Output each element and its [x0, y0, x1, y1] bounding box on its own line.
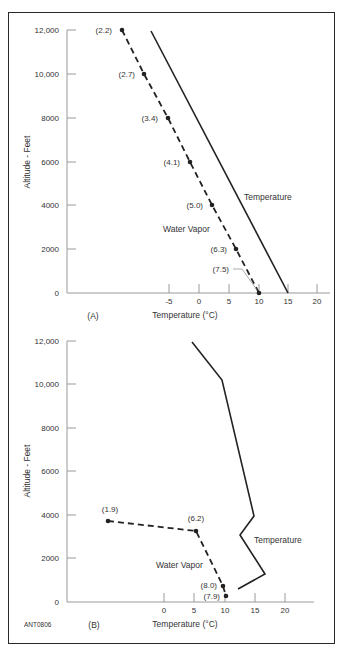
x-axis-title-a: Temperature (°C) [152, 310, 217, 320]
figure-code: ANT0806 [24, 621, 52, 628]
chart-canvas: 12,000 10,000 8000 6000 4000 2000 0 -5 0… [0, 0, 342, 652]
svg-text:10: 10 [255, 297, 264, 306]
x-tick-labels-a: -5 0 5 10 15 20 [165, 297, 322, 306]
panel-a: 12,000 10,000 8000 6000 4000 2000 0 -5 0… [22, 26, 330, 321]
svg-text:(8.0): (8.0) [201, 581, 218, 590]
svg-text:12,000: 12,000 [35, 337, 60, 346]
water-vapor-label-b: Water Vapor [156, 560, 203, 570]
svg-text:8000: 8000 [41, 424, 59, 433]
x-ticks-a [169, 284, 317, 293]
y-ticks-a [67, 30, 76, 249]
svg-text:(3.4): (3.4) [142, 114, 159, 123]
panel-label-a: (A) [87, 311, 99, 321]
svg-text:0: 0 [162, 606, 167, 615]
svg-text:15: 15 [251, 606, 260, 615]
water-vapor-label-a: Water Vapor [163, 224, 210, 234]
svg-text:(2.2): (2.2) [96, 26, 113, 35]
svg-text:(2.7): (2.7) [119, 70, 136, 79]
svg-text:10,000: 10,000 [35, 70, 60, 79]
water-vapor-point-labels-a: (2.2) (2.7) (3.4) (4.1) (5.0) (6.3) (7.5… [96, 26, 230, 274]
temperature-label-a: Temperature [244, 192, 292, 202]
water-vapor-point-labels-b: (1.9) (6.2) (8.0) (7.9) [102, 505, 221, 601]
svg-text:-5: -5 [165, 297, 173, 306]
svg-text:0: 0 [197, 297, 202, 306]
svg-text:(7.5): (7.5) [213, 265, 230, 274]
y-axis-title-b: Altitude - Feet [22, 444, 32, 498]
svg-text:12,000: 12,000 [35, 26, 60, 35]
svg-text:20: 20 [313, 297, 322, 306]
svg-text:0: 0 [55, 289, 60, 298]
leader-line-7-5 [233, 269, 257, 290]
panel-b: 12,000 10,000 8000 6000 4000 2000 0 0 5 … [22, 337, 314, 630]
svg-text:2000: 2000 [41, 554, 59, 563]
svg-text:(7.9): (7.9) [204, 592, 221, 601]
svg-text:4000: 4000 [41, 511, 59, 520]
svg-text:(6.3): (6.3) [211, 245, 228, 254]
panel-label-b: (B) [88, 620, 100, 630]
svg-text:(4.1): (4.1) [164, 158, 181, 167]
temperature-line-b [192, 342, 265, 589]
svg-text:6000: 6000 [41, 467, 59, 476]
svg-text:5: 5 [227, 297, 232, 306]
svg-text:10,000: 10,000 [35, 380, 60, 389]
svg-text:8000: 8000 [41, 114, 59, 123]
svg-text:2000: 2000 [41, 245, 59, 254]
svg-text:(5.0): (5.0) [187, 201, 204, 210]
y-tick-labels-a: 12,000 10,000 8000 6000 4000 2000 0 [35, 26, 60, 298]
x-axis-title-b: Temperature (°C) [152, 619, 217, 629]
svg-text:5: 5 [192, 606, 197, 615]
svg-text:15: 15 [284, 297, 293, 306]
y-tick-labels-b: 12,000 10,000 8000 6000 4000 2000 0 [35, 337, 60, 607]
x-tick-labels-b: 0 5 10 15 20 [162, 606, 290, 615]
svg-text:10: 10 [221, 606, 230, 615]
temperature-label-b: Temperature [254, 535, 302, 545]
svg-text:(1.9): (1.9) [102, 505, 119, 514]
y-axis-title-a: Altitude - Feet [22, 135, 32, 189]
svg-text:6000: 6000 [41, 158, 59, 167]
svg-text:(6.2): (6.2) [188, 514, 205, 523]
svg-text:0: 0 [55, 598, 60, 607]
svg-text:4000: 4000 [41, 201, 59, 210]
svg-text:20: 20 [281, 606, 290, 615]
y-ticks-b [67, 341, 76, 558]
